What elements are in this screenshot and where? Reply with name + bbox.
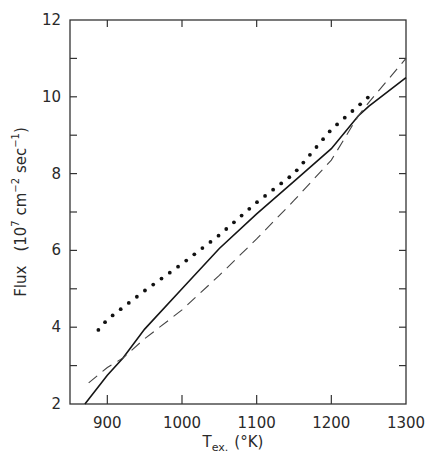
y-axis-title: Flux(107 cm−2 sec−1) (10, 127, 30, 297)
dotted-series-point (240, 214, 244, 218)
y-tick-label: 8 (51, 165, 61, 183)
y-tick-label: 2 (51, 395, 61, 413)
dotted-series-point (232, 220, 236, 224)
plot-frame (70, 20, 406, 404)
dotted-series-point (287, 175, 291, 179)
dotted-series-point (103, 320, 107, 324)
dotted-series-point (160, 277, 164, 281)
x-tick-label: 1100 (238, 414, 276, 432)
dotted-series-point (335, 123, 339, 127)
solid-series-line (85, 78, 406, 404)
y-tick-label: 6 (51, 241, 61, 259)
dotted-series-point (321, 137, 325, 141)
y-axis-ticks: 24681012 (42, 11, 406, 413)
dotted-series-point (217, 234, 221, 238)
x-tick-label: 900 (93, 414, 122, 432)
dotted-series-point (301, 161, 305, 165)
dotted-series-point (143, 289, 147, 293)
x-axis-ticks: 9001000110012001300 (93, 20, 425, 432)
dotted-series-point (168, 271, 172, 275)
y-tick-label: 4 (51, 318, 61, 336)
dotted-series-point (200, 246, 204, 250)
y-tick-label: 12 (42, 11, 61, 29)
dotted-series-point (127, 301, 131, 305)
dotted-series-point (224, 227, 228, 231)
dotted-series-point (295, 168, 299, 172)
flux-vs-temperature-chart: 24681012 9001000110012001300 Tex.(°K) Fl… (0, 0, 436, 468)
dotted-series-point (192, 252, 196, 256)
dotted-series-point (247, 207, 251, 211)
dotted-series-point (343, 116, 347, 120)
dotted-series-point (209, 240, 213, 244)
dotted-series-point (255, 200, 259, 204)
dotted-series-point (351, 109, 355, 113)
dotted-series-point (358, 102, 362, 106)
data-series (85, 58, 406, 404)
dotted-series-point (271, 188, 275, 192)
dotted-series-point (263, 194, 267, 198)
dotted-series-point (176, 265, 180, 269)
dotted-series-point (119, 307, 123, 311)
dotted-series-point (184, 259, 188, 263)
dotted-series-point (151, 283, 155, 287)
dotted-series-point (328, 130, 332, 134)
dotted-series-point (308, 153, 312, 157)
dotted-series-point (315, 145, 319, 149)
dotted-series-point (111, 314, 115, 318)
y-tick-label: 10 (42, 88, 61, 106)
dotted-series-point (366, 96, 370, 100)
dotted-series-point (279, 182, 283, 186)
dashed-series-line (89, 58, 406, 382)
x-axis-title: Tex.(°K) (202, 433, 264, 454)
x-tick-label: 1200 (312, 414, 350, 432)
dotted-series-point (96, 328, 100, 332)
x-tick-label: 1300 (387, 414, 425, 432)
x-tick-label: 1000 (163, 414, 201, 432)
dotted-series-point (135, 295, 139, 299)
